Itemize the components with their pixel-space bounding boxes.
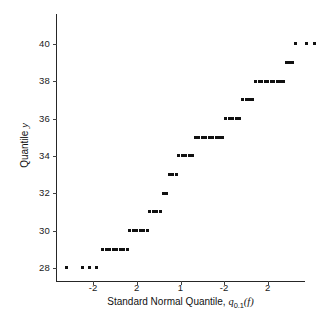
data-point — [305, 42, 308, 45]
y-tick-label: 30 — [28, 225, 50, 236]
y-tick-label: 40 — [28, 38, 50, 49]
quantile-plot-figure: -221-22 28303234363840 Standard Normal Q… — [0, 0, 317, 326]
y-tick-label: 38 — [28, 75, 50, 86]
plot-data-area — [56, 14, 305, 281]
x-axis-title-subscript: 0.1 — [234, 301, 244, 310]
data-point — [165, 192, 168, 195]
data-point — [175, 173, 178, 176]
x-tick-label: -2 — [209, 282, 239, 293]
data-point — [126, 248, 129, 251]
x-axis-title-argument: (f) — [244, 296, 254, 307]
data-point — [313, 42, 316, 45]
data-point — [81, 266, 84, 269]
x-axis-title: Standard Normal Quantile, q0.1(f) — [56, 296, 305, 310]
y-tick-label: 34 — [28, 150, 50, 161]
y-axis-title: Quantile y — [19, 76, 30, 216]
x-axis-title-text: Standard Normal Quantile, — [107, 296, 228, 307]
y-tick-label: 32 — [28, 187, 50, 198]
data-point — [294, 42, 297, 45]
y-axis-title-text: Quantile — [19, 128, 30, 168]
data-point — [159, 210, 162, 213]
x-tick-label: 1 — [166, 282, 196, 293]
data-point — [221, 136, 224, 139]
data-point — [251, 98, 254, 101]
x-tick-label: 2 — [122, 282, 152, 293]
data-point — [88, 266, 91, 269]
data-point — [95, 266, 98, 269]
y-tick-label: 28 — [28, 262, 50, 273]
x-tick-label: -2 — [78, 282, 108, 293]
data-point — [291, 61, 294, 64]
data-point — [146, 229, 149, 232]
data-point — [65, 266, 68, 269]
y-axis-title-symbol: y — [19, 123, 30, 128]
y-tick-label: 36 — [28, 113, 50, 124]
x-tick-label: 2 — [253, 282, 283, 293]
data-point — [238, 117, 241, 120]
data-point — [191, 154, 194, 157]
data-point — [282, 80, 285, 83]
